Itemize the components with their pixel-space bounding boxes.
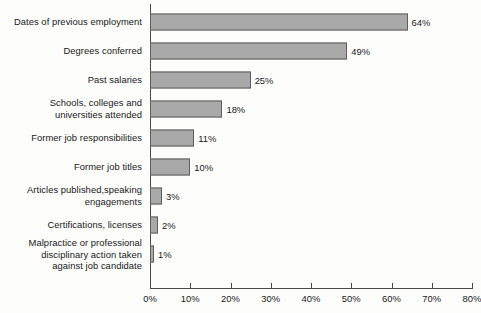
bar [150, 159, 190, 176]
category-label: Degrees conferred [0, 45, 142, 57]
category-label: Malpractice or professional disciplinary… [0, 237, 142, 272]
x-axis-tick-label: 0% [143, 293, 157, 304]
bar [150, 72, 251, 89]
bar-value-label: 10% [194, 162, 213, 173]
x-axis-tick [351, 283, 352, 289]
bar-value-label: 25% [255, 75, 274, 86]
category-label: Former job titles [0, 161, 142, 173]
x-axis-tick-label: 20% [221, 293, 240, 304]
x-axis-tick-label: 70% [422, 293, 441, 304]
bar-value-label: 49% [351, 46, 370, 57]
x-axis-tick-label: 10% [181, 293, 200, 304]
category-label-column: Dates of previous employmentDegrees conf… [0, 0, 146, 279]
bar [150, 217, 158, 234]
category-label: Certifications, licenses [0, 219, 142, 231]
x-axis-tick [472, 283, 473, 289]
bar [150, 43, 347, 60]
bar-value-label: 1% [158, 249, 172, 260]
category-label: Past salaries [0, 74, 142, 86]
category-label: Former job responsibilities [0, 132, 142, 144]
x-axis-tick [150, 283, 151, 289]
bar [150, 246, 154, 263]
x-axis-tick [190, 283, 191, 289]
bar-value-label: 2% [162, 220, 176, 231]
bar-value-label: 18% [226, 104, 245, 115]
x-axis-tick [392, 283, 393, 289]
category-label: Articles published,speaking engagements [0, 184, 142, 207]
x-axis-tick-label: 80% [463, 293, 481, 304]
x-axis-tick-label: 60% [382, 293, 401, 304]
x-axis-tick [311, 283, 312, 289]
plot-area: 0%10%20%30%40%50%60%70%80%64%49%25%18%11… [150, 0, 476, 288]
category-label: Schools, colleges and universities atten… [0, 97, 142, 120]
bar [150, 130, 194, 147]
bar [150, 14, 408, 31]
x-axis-tick [432, 283, 433, 289]
bar-value-label: 3% [166, 191, 180, 202]
x-axis-tick-label: 40% [302, 293, 321, 304]
x-axis-tick-label: 50% [342, 293, 361, 304]
bar [150, 101, 222, 118]
category-label: Dates of previous employment [0, 16, 142, 28]
bar [150, 188, 162, 205]
x-axis-tick [231, 283, 232, 289]
x-axis-tick [271, 283, 272, 289]
bar-value-label: 64% [412, 17, 431, 28]
bar-value-label: 11% [198, 133, 216, 144]
x-axis-tick-label: 30% [261, 293, 280, 304]
